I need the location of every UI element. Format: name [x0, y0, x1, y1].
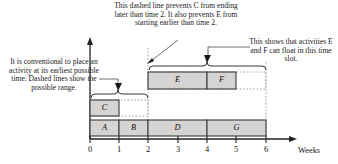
leader-left-annotation: [99, 79, 122, 91]
xtick-label-4: 4: [200, 145, 214, 154]
xtick-label-6: 6: [259, 145, 273, 154]
xtick-label-3: 3: [171, 145, 185, 154]
leader-right-annotation: [204, 47, 250, 63]
xtick-label-2: 2: [141, 145, 155, 154]
gantt-chart-figure: This dashed line prevents C from ending …: [0, 0, 338, 164]
x-axis-title: Weeks: [298, 146, 320, 155]
leader-top-annotation: [147, 40, 178, 64]
task-label-F: F: [207, 76, 236, 84]
task-label-C: C: [90, 104, 119, 112]
float-brace-c: [91, 90, 148, 98]
task-label-E: E: [148, 76, 207, 84]
xtick-label-1: 1: [112, 145, 126, 154]
task-label-A: A: [90, 124, 119, 132]
float-brace-ef: [149, 62, 266, 70]
xtick-label-5: 5: [229, 145, 243, 154]
task-label-D: D: [148, 124, 207, 132]
task-label-B: B: [119, 124, 148, 132]
task-label-G: G: [207, 124, 266, 132]
xtick-label-0: 0: [83, 145, 97, 154]
